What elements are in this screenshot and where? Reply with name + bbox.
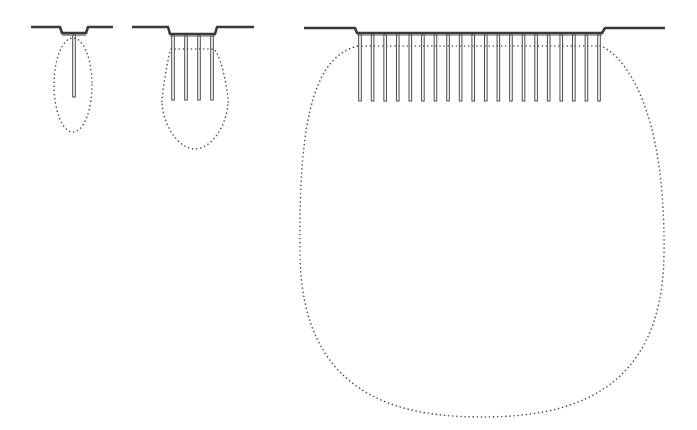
pile (497, 35, 500, 101)
pile (434, 35, 437, 101)
ground-surface-line (132, 27, 254, 34)
pile (598, 35, 601, 101)
pile (359, 35, 362, 101)
pile (371, 35, 374, 101)
pile (422, 35, 425, 101)
pile (172, 36, 175, 100)
pile (522, 35, 525, 101)
ground-surface-line (31, 27, 113, 33)
pile-group-diagram (0, 0, 697, 430)
pile (459, 35, 462, 101)
pile (560, 35, 563, 101)
small-pile-group (132, 27, 254, 149)
large-pile-group (300, 28, 665, 417)
pile (185, 36, 188, 100)
pressure-bulb (300, 46, 664, 417)
pile (409, 35, 412, 101)
pile (472, 35, 475, 101)
pile (535, 35, 538, 101)
pile (447, 35, 450, 101)
pile (484, 35, 487, 101)
pile (384, 35, 387, 101)
pile (510, 35, 513, 101)
pile (211, 36, 214, 100)
pile (198, 36, 201, 100)
diagram-canvas (0, 0, 697, 430)
pile (585, 35, 588, 101)
pile (73, 35, 76, 97)
pile (573, 35, 576, 101)
pile (547, 35, 550, 101)
ground-surface-line (304, 28, 665, 33)
pile (396, 35, 399, 101)
single-pile-group (31, 27, 113, 132)
